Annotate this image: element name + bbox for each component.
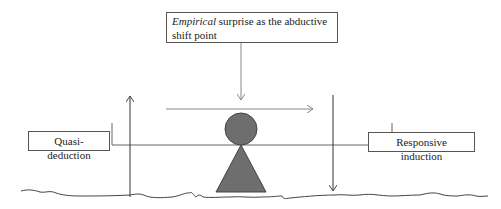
surprise-label-box: Empirical surprise as the abductive shif… — [166, 12, 338, 43]
quasi-deduction-box: Quasi-deduction — [28, 131, 110, 151]
surprise-label-italic: Empirical — [172, 15, 216, 27]
balance-head-circle — [225, 113, 257, 145]
responsive-induction-box: Responsive induction — [368, 132, 475, 152]
responsive-induction-label: Responsive induction — [396, 136, 447, 162]
quasi-deduction-label: Quasi-deduction — [47, 135, 90, 161]
fulcrum-triangle — [216, 145, 266, 192]
